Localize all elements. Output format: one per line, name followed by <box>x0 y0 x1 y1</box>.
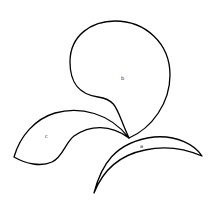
label-c: c <box>45 133 48 139</box>
shape-a <box>94 137 202 193</box>
label-b: b <box>121 75 124 81</box>
diagram-svg: b c a <box>0 0 216 214</box>
label-a: a <box>140 143 143 149</box>
shape-b <box>70 21 170 138</box>
diagram-canvas: b c a <box>0 0 216 214</box>
